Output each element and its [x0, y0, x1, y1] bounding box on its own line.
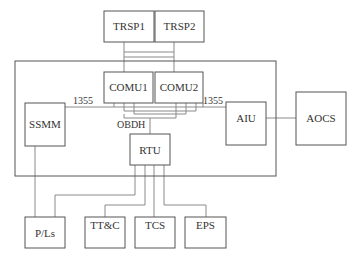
block-diagram: 1355 1355 OBDH TRSP1 TRSP2 COMU1 COMU2 S…	[0, 0, 356, 264]
svg-text:EPS: EPS	[196, 219, 215, 231]
svg-text:RTU: RTU	[139, 144, 160, 156]
node-ttc: TT&C	[85, 217, 125, 248]
node-aocs: AOCS	[296, 92, 346, 145]
node-trsp1: TRSP1	[104, 11, 154, 42]
node-tcs: TCS	[135, 217, 175, 248]
svg-text:TRSP2: TRSP2	[164, 20, 196, 32]
svg-text:SSMM: SSMM	[29, 118, 61, 130]
node-eps: EPS	[185, 217, 226, 248]
svg-text:TRSP1: TRSP1	[113, 20, 145, 32]
svg-text:COMU2: COMU2	[160, 81, 199, 93]
svg-text:TCS: TCS	[145, 219, 165, 231]
bus-label-left: 1355	[73, 95, 93, 106]
svg-text:AOCS: AOCS	[306, 112, 335, 124]
obdh-label: OBDH	[117, 119, 145, 130]
svg-text:COMU1: COMU1	[109, 81, 148, 93]
node-ssmm: SSMM	[25, 103, 65, 146]
node-trsp2: TRSP2	[155, 11, 204, 42]
node-comu1: COMU1	[104, 72, 153, 103]
node-comu2: COMU2	[155, 72, 203, 103]
node-rtu: RTU	[130, 134, 170, 165]
bus-label-right: 1355	[203, 95, 223, 106]
svg-text:P/Ls: P/Ls	[35, 227, 55, 239]
node-pls: P/Ls	[25, 217, 65, 248]
svg-text:AIU: AIU	[236, 112, 256, 124]
node-aiu: AIU	[226, 102, 266, 145]
svg-text:TT&C: TT&C	[90, 219, 119, 231]
